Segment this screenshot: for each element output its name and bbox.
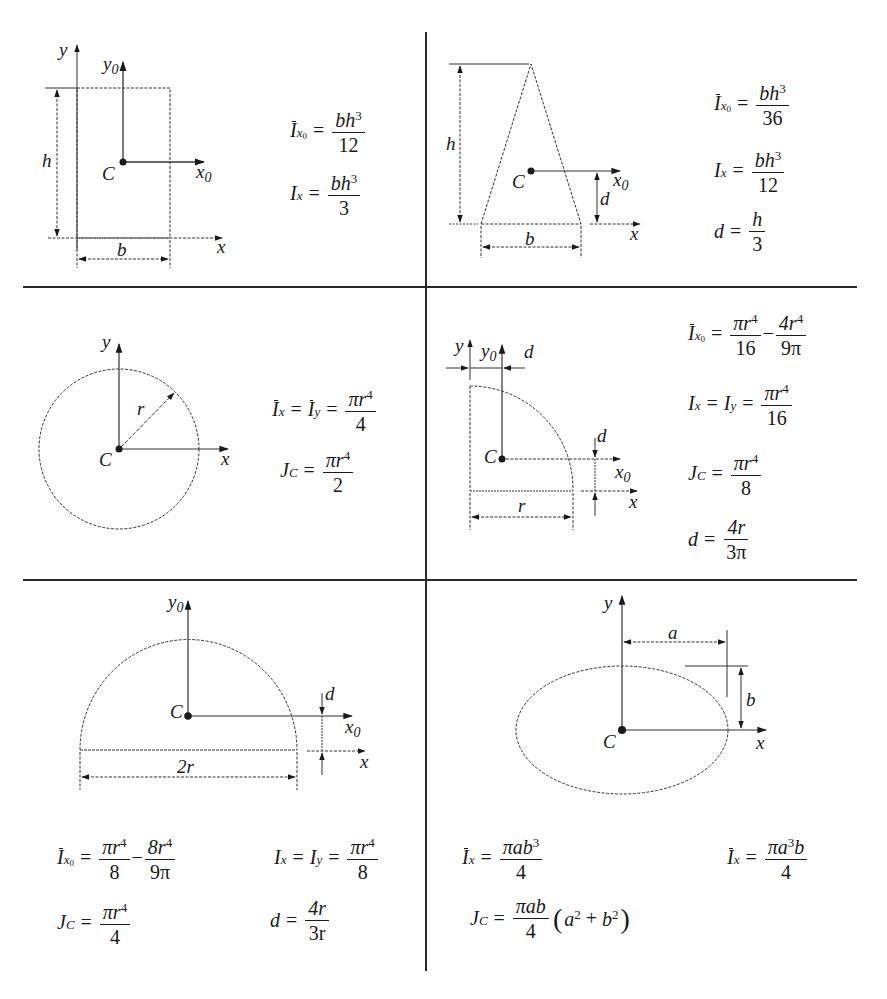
label-y0: y0	[166, 591, 183, 615]
formula-circle-ix-iy: Ix = Iy = πr44	[272, 384, 378, 435]
label-y: y	[602, 592, 613, 613]
label-r: r	[137, 398, 145, 419]
label-centroid-c: C	[170, 701, 183, 722]
label-y: y	[57, 39, 68, 60]
label-d: d	[325, 683, 335, 704]
label-y: y	[453, 335, 464, 356]
label-x: x	[629, 223, 639, 244]
ellipse-diagram	[516, 596, 766, 794]
quarter-circle-diagram	[446, 340, 637, 530]
label-x0: x0	[612, 169, 628, 193]
label-x: x	[359, 751, 369, 772]
formula-semi-jc: JC = πr44	[57, 897, 132, 948]
label-d-side: d	[597, 425, 607, 446]
formula-tri-d: d = h3	[714, 208, 767, 255]
formula-semi-d: d = 4r3r	[270, 897, 331, 944]
formula-quarter-jc: JC = πr48	[688, 448, 763, 499]
formula-ellipse-iy: Ix = πa3b4	[727, 832, 809, 883]
formula-semi-ix-iy: Ix = Iy = πr48	[274, 832, 380, 883]
label-r: r	[518, 495, 526, 516]
label-x: x	[755, 732, 765, 753]
formula-circle-jc: JC = πr42	[280, 445, 355, 496]
label-h: h	[42, 150, 52, 171]
label-a: a	[668, 622, 678, 643]
formula-quarter-ix-iy: Ix = Iy = πr416	[688, 378, 794, 429]
label-centroid-c: C	[603, 731, 616, 752]
label-b: b	[746, 689, 756, 710]
label-d-top: d	[524, 341, 534, 362]
formula-tri-ix: Ix = bh312	[714, 145, 786, 196]
label-centroid-c: C	[99, 449, 112, 470]
formula-rect-ix: Ix = bh33	[290, 168, 362, 219]
formula-rect-ix0: Ix0 = bh312	[290, 105, 367, 156]
label-y: y	[100, 331, 111, 352]
label-x0: x0	[195, 161, 211, 185]
label-d: d	[600, 188, 610, 209]
formula-semi-ix0: Ix0 = πr48 − 8r49π	[57, 832, 177, 883]
label-y0: y0	[479, 340, 496, 364]
label-2r: 2r	[177, 756, 195, 777]
label-x0: x0	[614, 461, 630, 485]
label-centroid-c: C	[512, 171, 525, 192]
circle-diagram	[39, 344, 228, 529]
label-x: x	[216, 236, 226, 257]
formula-tri-ix0: Ix0 = bh336	[714, 78, 791, 129]
label-x0: x0	[344, 716, 360, 740]
label-x: x	[220, 448, 230, 469]
label-centroid-c: C	[484, 446, 497, 467]
formula-ellipse-ix: Ix = πab34	[462, 832, 544, 883]
formula-ellipse-jc: JC = πab4 ( a2 + b2 )	[470, 895, 632, 942]
semicircle-diagram	[80, 601, 365, 790]
label-x: x	[628, 491, 638, 512]
formula-quarter-ix0: Ix0 = πr416 − 4r49π	[688, 308, 808, 359]
label-b: b	[117, 239, 127, 260]
rectangle-diagram	[45, 45, 222, 268]
label-h: h	[446, 133, 456, 154]
triangle-diagram	[449, 64, 640, 258]
label-centroid-c: C	[102, 163, 115, 184]
label-y0: y0	[101, 53, 118, 77]
label-b: b	[525, 228, 535, 249]
formula-quarter-d: d = 4r3π	[688, 516, 751, 563]
